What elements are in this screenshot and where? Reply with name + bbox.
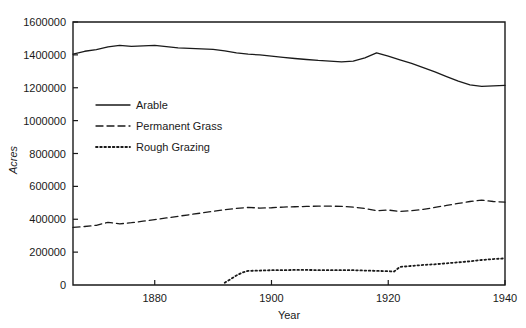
y-axis-ticks: 0200000400000600000800000100000012000001… <box>23 16 78 291</box>
x-tick-label: 1920 <box>376 292 400 304</box>
legend-label-permanent-grass: Permanent Grass <box>136 120 223 132</box>
y-tick-label: 1400000 <box>23 49 66 61</box>
x-tick-label: 1900 <box>259 292 283 304</box>
x-tick-label: 1880 <box>142 292 166 304</box>
y-tick-label: 0 <box>60 279 66 291</box>
x-tick-label: 1940 <box>493 292 517 304</box>
y-tick-label: 200000 <box>29 246 66 258</box>
legend-label-arable: Arable <box>136 99 168 111</box>
axis-frame <box>73 22 505 285</box>
data-series-group <box>73 45 505 282</box>
y-tick-label: 800000 <box>29 148 66 160</box>
legend-label-rough-grazing: Rough Grazing <box>136 141 210 153</box>
chart-legend: ArablePermanent GrassRough Grazing <box>96 99 223 153</box>
y-tick-label: 1200000 <box>23 82 66 94</box>
line-chart: 0200000400000600000800000100000012000001… <box>0 0 526 328</box>
y-tick-label: 400000 <box>29 213 66 225</box>
plot-frame <box>73 22 505 285</box>
chart-container: 0200000400000600000800000100000012000001… <box>0 0 526 328</box>
y-tick-label: 1600000 <box>23 16 66 28</box>
series-line-rough-grazing <box>225 258 505 282</box>
x-axis-title: Year <box>278 309 301 321</box>
series-line-permanent-grass <box>73 200 505 227</box>
y-tick-label: 1000000 <box>23 115 66 127</box>
y-tick-label: 600000 <box>29 180 66 192</box>
x-axis-ticks: 1880190019201940 <box>142 280 517 304</box>
series-line-arable <box>73 45 505 86</box>
y-axis-title: Acres <box>7 145 19 175</box>
